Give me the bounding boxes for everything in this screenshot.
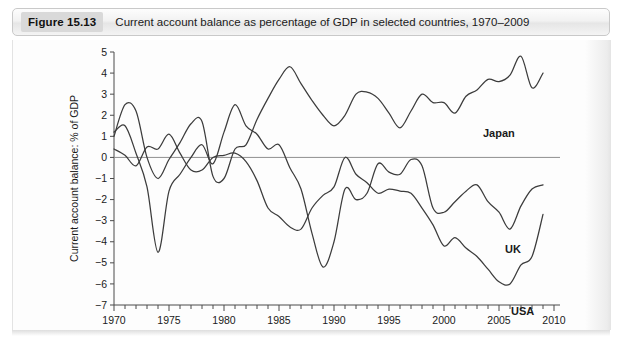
- series-line-usa: [114, 134, 543, 285]
- x-tick-label: 2010: [542, 314, 566, 326]
- y-tick-label: 0: [101, 151, 107, 163]
- y-tick-label: −1: [95, 172, 107, 184]
- x-tick-label: 1970: [102, 314, 126, 326]
- series-line-japan: [114, 56, 543, 183]
- x-tick-label: 2000: [432, 314, 456, 326]
- series-label-japan: Japan: [483, 127, 515, 139]
- y-tick-label: 2: [101, 109, 107, 121]
- y-tick-label: −3: [95, 214, 107, 226]
- figure-root: Figure 15.13 Current account balance as …: [0, 0, 630, 353]
- chart-svg: 543210−1−2−3−4−5−6−719701975198019851990…: [13, 40, 611, 330]
- y-tick-label: −6: [95, 278, 107, 290]
- y-tick-label: −4: [95, 235, 107, 247]
- x-tick-label: 1990: [322, 314, 346, 326]
- panel-bottom-shadow: [12, 330, 610, 336]
- y-tick-label: 5: [101, 46, 107, 58]
- y-tick-label: −7: [95, 299, 107, 311]
- y-tick-label: 3: [101, 88, 107, 100]
- x-tick-label: 1985: [267, 314, 291, 326]
- y-tick-label: −2: [95, 193, 107, 205]
- x-tick-label: 2005: [487, 314, 511, 326]
- figure-number-badge: Figure 15.13: [21, 12, 103, 32]
- chart-panel: 543210−1−2−3−4−5−6−719701975198019851990…: [12, 40, 610, 330]
- series-label-usa: USA: [511, 305, 534, 317]
- series-line-uk: [114, 105, 543, 267]
- y-tick-label: −5: [95, 256, 107, 268]
- figure-title: Current account balance as percentage of…: [115, 16, 529, 28]
- x-tick-label: 1980: [212, 314, 236, 326]
- x-tick-label: 1995: [377, 314, 401, 326]
- figure-caption-bar: Figure 15.13 Current account balance as …: [12, 8, 610, 36]
- chart-plot-area: 543210−1−2−3−4−5−6−719701975198019851990…: [13, 40, 611, 330]
- series-label-uk: UK: [505, 243, 521, 255]
- y-tick-label: 4: [101, 67, 107, 79]
- x-tick-label: 1975: [157, 314, 181, 326]
- y-tick-label: 1: [101, 130, 107, 142]
- y-axis-title: Current account balance: % of GDP: [68, 95, 80, 262]
